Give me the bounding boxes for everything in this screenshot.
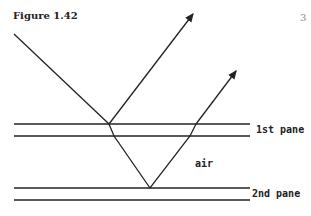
label-2nd-pane: 2nd pane bbox=[252, 188, 300, 199]
reflected-ray-1 bbox=[109, 14, 193, 124]
diagram bbox=[0, 0, 311, 216]
label-air: air bbox=[195, 158, 213, 169]
incident-ray bbox=[14, 34, 109, 124]
label-1st-pane: 1st pane bbox=[256, 124, 304, 135]
reflected-ray-2 bbox=[196, 71, 236, 124]
transmitted-ray-path bbox=[109, 124, 196, 188]
